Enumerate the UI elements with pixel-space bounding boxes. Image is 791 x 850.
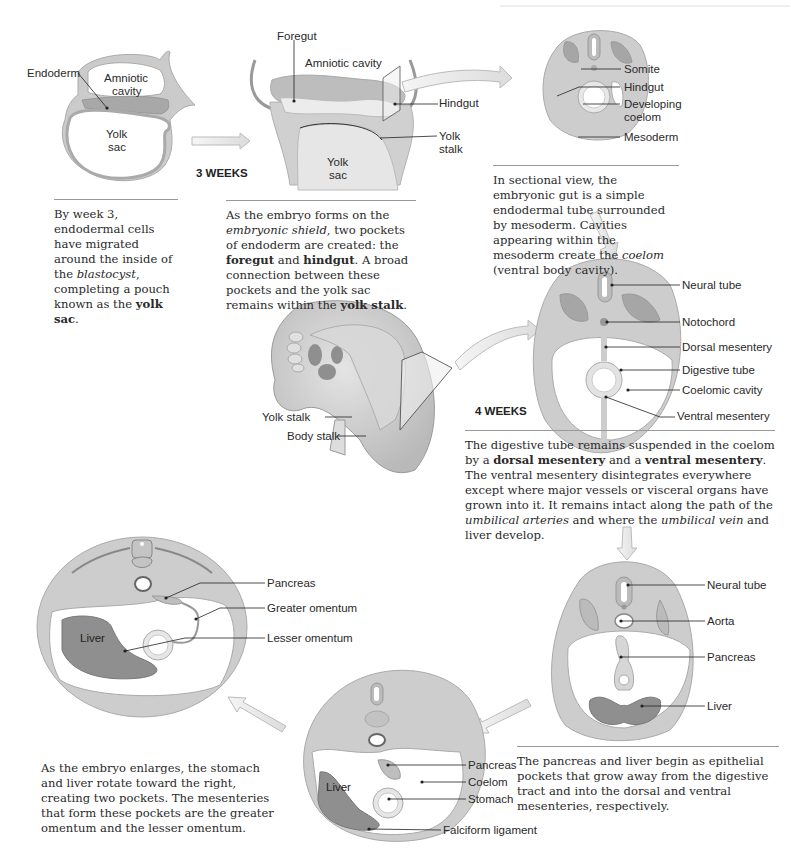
label-pancreas-6: Pancreas (707, 651, 756, 664)
caption-run: As the embryo enlarges, the stomach and … (41, 761, 274, 835)
label-falciform-ligament: Falciform ligament (443, 824, 537, 837)
label-coelom: Coelom (468, 776, 508, 789)
caption-run: and a (605, 453, 645, 467)
caption-run: blastocyst (77, 267, 136, 281)
caption-panel1: By week 3, endodermal cells have migrate… (54, 199, 178, 327)
label-yolk-sac-line2: sac (108, 141, 126, 154)
panel7-section-illustration (304, 670, 486, 841)
label-pancreas-7: Pancreas (468, 759, 517, 772)
caption-run: umbilical arteries (465, 513, 569, 527)
caption-panel5: The digestive tube remains suspended in … (465, 430, 775, 543)
label-endoderm: Endoderm (27, 67, 80, 80)
label-hindgut-3: Hindgut (624, 81, 664, 94)
label-hindgut: Hindgut (439, 97, 479, 110)
panel4-embryo-illustration (271, 301, 452, 473)
label-neural-tube-5: Neural tube (682, 279, 741, 292)
label-liver-8: Liver (80, 632, 105, 645)
label-yolk-stalk-line1: Yolk (439, 130, 460, 143)
caption-run: The pancreas and liver begin as epitheli… (517, 754, 768, 813)
panel8-section-illustration (37, 537, 247, 717)
caption-run: umbilical vein (661, 513, 743, 527)
label-stomach: Stomach (468, 793, 513, 806)
label-yolk-sac-line1: Yolk (106, 128, 127, 141)
label-liver-7: Liver (326, 781, 351, 794)
arrow-1-to-2 (192, 133, 250, 149)
label-pancreas-8: Pancreas (267, 577, 316, 590)
caption-run: As the embryo forms on the (226, 208, 389, 222)
label-greater-omentum: Greater omentum (267, 602, 357, 615)
caption-run: . (403, 298, 407, 312)
label-foregut: Foregut (277, 30, 317, 43)
label-amniotic-cavity-line2: cavity (112, 85, 141, 98)
arrow-2-to-3 (402, 66, 512, 92)
caption-run: ventral mesentery (645, 453, 763, 467)
arrow-4-to-5 (455, 320, 540, 370)
panel1-blastocyst-illustration (62, 51, 195, 180)
caption-panel6: The pancreas and liver begin as epitheli… (517, 746, 779, 814)
label-ventral-mesentery: Ventral mesentery (677, 410, 770, 423)
label-digestive-tube: Digestive tube (682, 364, 755, 377)
caption-run: yolk stalk (340, 298, 403, 312)
label-yolk-sac-2-line2: sac (329, 169, 347, 182)
label-body-stalk: Body stalk (287, 430, 340, 443)
label-yolk-sac-2-line1: Yolk (327, 156, 348, 169)
label-aorta: Aorta (707, 615, 735, 628)
label-somite: Somite (624, 63, 660, 76)
caption-run: dorsal mesentery (493, 453, 605, 467)
panel5-section-illustration (533, 259, 680, 453)
label-developing-coelom-line2: coelom (624, 111, 661, 124)
label-mesoderm: Mesoderm (624, 131, 678, 144)
label-developing-coelom-line1: Developing (624, 98, 682, 111)
label-liver-6: Liver (707, 700, 732, 713)
caption-run: (ventral body cavity). (493, 263, 618, 277)
label-neural-tube-6: Neural tube (707, 579, 766, 592)
panel6-section-illustration (551, 562, 693, 741)
stage-label-3-weeks: 3 WEEKS (196, 167, 248, 179)
caption-run: foregut (226, 253, 274, 267)
caption-panel3: In sectional view, the embryonic gut is … (493, 165, 679, 278)
caption-run: . (75, 312, 79, 326)
label-yolk-stalk-line2: stalk (439, 143, 463, 156)
caption-run: hindgut (303, 253, 354, 267)
caption-run: embryonic shield (226, 223, 327, 237)
caption-run: and where the (569, 513, 661, 527)
caption-run: and (274, 253, 303, 267)
arrow-7-to-8 (228, 697, 286, 732)
label-amniotic-cavity-2: Amniotic cavity (305, 57, 382, 70)
label-yolk-stalk-4: Yolk stalk (262, 411, 310, 424)
label-coelomic-cavity: Coelomic cavity (682, 384, 763, 397)
caption-panel8: As the embryo enlarges, the stomach and … (41, 754, 281, 836)
caption-panel2: As the embryo forms on the embryonic shi… (226, 200, 416, 313)
stage-label-4-weeks: 4 WEEKS (475, 405, 527, 417)
label-notochord: Notochord (682, 316, 735, 329)
label-dorsal-mesentery: Dorsal mesentery (682, 341, 772, 354)
caption-run: coelom (622, 248, 664, 262)
label-lesser-omentum: Lesser omentum (267, 632, 353, 645)
label-amniotic-cavity-line1: Amniotic (104, 72, 148, 85)
